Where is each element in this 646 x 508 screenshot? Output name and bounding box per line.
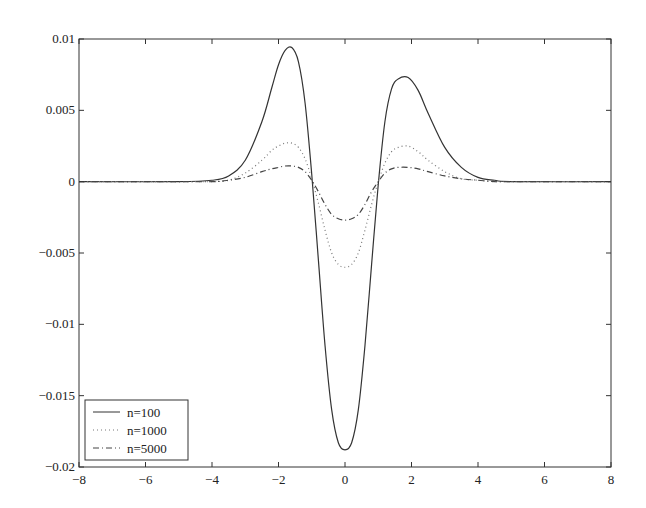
legend-label-n100: n=100	[127, 405, 160, 420]
line-chart: −8−6−4−202468 0.010.0050−0.005−0.01−0.01…	[0, 0, 646, 508]
legend-label-n1000: n=1000	[127, 423, 167, 438]
x-tick-label: −8	[72, 472, 86, 487]
series-line-n100	[79, 47, 611, 450]
x-tick-label: 0	[342, 472, 349, 487]
y-tick-label: 0.01	[52, 31, 75, 46]
x-tick-label: 4	[475, 472, 482, 487]
x-tick-label: −6	[139, 472, 153, 487]
x-tick-label: −4	[205, 472, 219, 487]
x-tick-label: 8	[608, 472, 615, 487]
y-tick-label: −0.01	[45, 316, 75, 331]
y-tick-label: 0	[69, 174, 76, 189]
legend-label-n5000: n=5000	[127, 441, 167, 456]
legend: n=100 n=1000 n=5000	[85, 400, 188, 460]
series-line-n5000	[79, 166, 611, 220]
x-tick-label: −2	[272, 472, 286, 487]
x-tick-label: 6	[541, 472, 548, 487]
y-tick-label: −0.015	[38, 388, 75, 403]
series-line-n1000	[79, 143, 611, 268]
y-tick-label: −0.005	[38, 245, 75, 260]
y-tick-label: 0.005	[46, 102, 75, 117]
y-tick-label: −0.02	[45, 459, 75, 474]
plot-curves	[79, 47, 611, 450]
x-tick-label: 2	[408, 472, 415, 487]
